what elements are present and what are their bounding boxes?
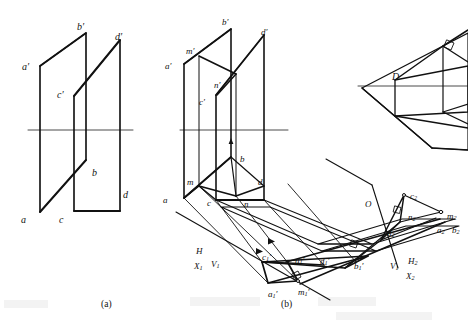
point-label-b-m2: m2 bbox=[447, 212, 457, 221]
point-label-b-m1p: m1′ bbox=[298, 288, 310, 297]
point-label-b-c1p: c1′ bbox=[262, 253, 271, 262]
point-label-b-c2: c2 bbox=[410, 192, 417, 201]
point-label-b-n1p: n1′ bbox=[295, 256, 305, 265]
plane-cddc-a bbox=[74, 40, 120, 211]
panel-c-geometry bbox=[358, 30, 468, 150]
point-c2 bbox=[403, 194, 406, 197]
point-label-b-mp: m′ bbox=[186, 47, 194, 56]
plane-cddc-top-b bbox=[216, 35, 264, 95]
point-label-b-np: n′ bbox=[214, 81, 220, 90]
segment-a-m-plan bbox=[184, 186, 199, 198]
segment-n-d-plan bbox=[236, 186, 264, 196]
point-label-b-b1p: b1′ bbox=[354, 262, 364, 271]
ground-plane-c bbox=[362, 33, 468, 150]
panel-a-geometry bbox=[28, 33, 133, 212]
aux2-long-edge-2 bbox=[300, 222, 445, 284]
point-label-b-b2: b2 bbox=[452, 226, 460, 235]
point-label-a-dp: d′ bbox=[115, 32, 122, 42]
projector-ray-5 bbox=[264, 200, 324, 265]
point-label-b-V1b: V1 bbox=[390, 262, 399, 271]
wedge-diag3-c bbox=[443, 112, 468, 124]
point-m2 bbox=[439, 210, 442, 213]
point-label-b-d1p: d1′ bbox=[320, 257, 330, 266]
point-label-b-dp: d′ bbox=[261, 28, 267, 37]
point-m1 bbox=[297, 280, 300, 283]
point-label-b-cp: c′ bbox=[199, 98, 205, 107]
point-label-b-d: d bbox=[258, 178, 263, 187]
point-label-b-X1: X1 bbox=[194, 262, 203, 271]
caption-cap-b: (b) bbox=[281, 300, 292, 310]
point-label-b-c: c bbox=[207, 199, 211, 208]
point-label-b-H2: H2 bbox=[408, 257, 418, 266]
point-label-b-d2: d2 bbox=[387, 229, 395, 238]
technical-drawing-plate: b′d′a′c′bdac b′d′m′a′n′c′bmdacnHX1V1c1′n… bbox=[0, 0, 468, 324]
point-label-a-c: c bbox=[59, 215, 63, 225]
point-label-b-n: n bbox=[244, 200, 249, 209]
point-label-b-n2: n2 bbox=[408, 213, 416, 222]
plane-abba-top-a bbox=[40, 33, 86, 66]
fold-line-x2h2-ext bbox=[326, 159, 372, 185]
point-label-a-b: b bbox=[92, 168, 97, 178]
point-label-b-V1: V1 bbox=[211, 260, 220, 269]
drawing-canvas bbox=[0, 0, 468, 324]
point-label-a-bp: b′ bbox=[77, 22, 84, 32]
point-label-a-cp: c′ bbox=[57, 90, 64, 100]
arrow-head-b bbox=[229, 138, 234, 144]
point-label-a-a: a bbox=[21, 215, 26, 225]
point-label-b-a: a bbox=[163, 196, 168, 205]
projector-ray-6 bbox=[288, 184, 356, 262]
point-label-b-bp: b′ bbox=[222, 18, 228, 27]
point-label-c-D: D bbox=[392, 72, 399, 82]
point-label-b-a2: a2 bbox=[437, 226, 445, 235]
plane-cddc-b bbox=[216, 35, 264, 200]
point-label-b-b: b bbox=[240, 155, 245, 164]
plane-cddc-top-a bbox=[74, 40, 120, 96]
point-label-b-ap: a′ bbox=[165, 62, 171, 71]
ground-plane-edge-c bbox=[362, 88, 432, 148]
segment-b-n-plan bbox=[231, 157, 236, 196]
point-label-b-H: H bbox=[196, 247, 203, 256]
plane-abba-bottom-a bbox=[40, 160, 86, 212]
ground-plane-edge-c2 bbox=[432, 148, 468, 150]
point-label-b-m: m bbox=[187, 178, 194, 187]
wedge-face-c bbox=[395, 66, 468, 116]
point-label-a-ap: a′ bbox=[22, 62, 29, 72]
wedge-diag2-c bbox=[443, 104, 468, 112]
projector-ray-3 bbox=[216, 200, 262, 262]
point-label-b-O: O bbox=[365, 200, 372, 209]
point-label-a-d: d bbox=[123, 190, 128, 200]
point-label-b-a1p: a1′ bbox=[268, 290, 278, 299]
point-label-b-X2: X2 bbox=[406, 272, 415, 281]
caption-cap-a: (a) bbox=[101, 300, 112, 310]
aux-view-outline bbox=[262, 256, 368, 283]
band-arrow-1 bbox=[268, 238, 275, 245]
